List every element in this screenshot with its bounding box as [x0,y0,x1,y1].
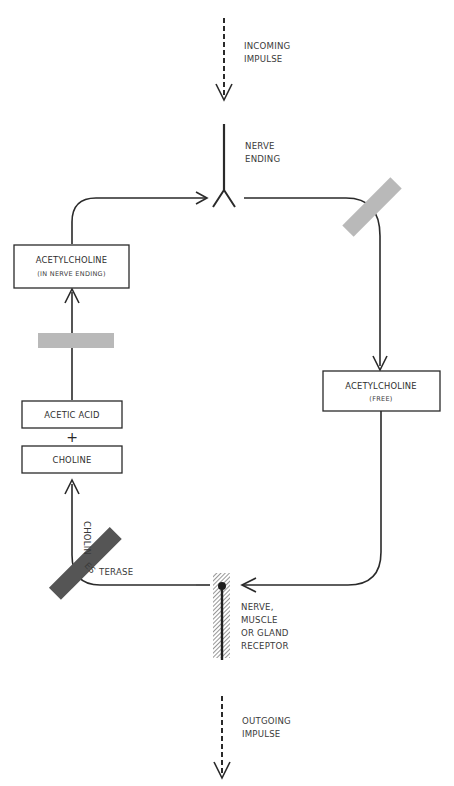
cholinesterase-label-vertical: CHOLIN [82,521,92,555]
svg-text:(FREE): (FREE) [369,395,392,403]
cholinesterase-label-horizontal: TERASE [98,567,133,577]
ach-nerve-ending-box: ACETYLCHOLINE (IN NERVE ENDING) [14,245,129,288]
blocking-bar-synthesis [38,333,114,348]
incoming-impulse-label: INCOMING IMPULSE [244,41,293,64]
svg-text:ACETYLCHOLINE: ACETYLCHOLINE [36,255,108,265]
nerve-ending-label: NERVE ENDING [245,141,280,164]
outgoing-impulse-label: OUTGOING IMPULSE [242,716,294,739]
path-to-receptor [244,411,381,585]
svg-text:(IN NERVE ENDING): (IN NERVE ENDING) [37,270,106,278]
receptor-icon [213,573,230,660]
svg-text:ACETIC ACID: ACETIC ACID [44,410,99,420]
ach-free-box: ACETYLCHOLINE (FREE) [323,371,440,411]
acetylcholine-cycle-diagram: INCOMING IMPULSE NERVE ENDING ACETYLCHOL… [0,0,454,786]
svg-text:ACETYLCHOLINE: ACETYLCHOLINE [345,381,417,391]
choline-box: CHOLINE [22,446,122,473]
path-release-arrow [72,198,206,244]
acetic-acid-box: ACETIC ACID [22,401,122,428]
plus-sign: + [66,429,78,445]
blocking-bar-release [342,177,401,236]
outgoing-impulse-arrow [214,696,230,778]
nerve-ending-icon [213,124,235,207]
svg-text:CHOLINE: CHOLINE [53,455,92,465]
receptor-label: NERVE, MUSCLE OR GLAND RECEPTOR [241,602,292,651]
incoming-impulse-arrow [216,18,232,100]
